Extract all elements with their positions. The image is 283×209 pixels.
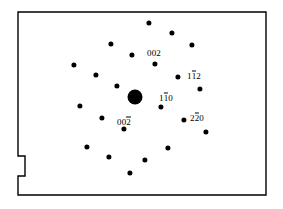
label-1bar10: 110 (159, 94, 173, 103)
index-digit-barred: 2 (126, 118, 131, 127)
plate-border-path (18, 12, 266, 195)
label-1bar12: 112 (187, 72, 201, 81)
plate-outline (0, 0, 283, 209)
index-digit-barred: 2 (195, 114, 200, 123)
label-002: 002 (147, 49, 161, 58)
index-digit: 00 (117, 117, 126, 127)
index-digit: 2 (196, 71, 201, 81)
index-digit: 002 (147, 48, 161, 58)
index-digit: 0 (199, 113, 204, 123)
index-digit: 0 (168, 93, 173, 103)
transmitted-beam-spot (128, 90, 143, 105)
index-digit-barred: 1 (164, 94, 169, 103)
index-digit-barred: 1 (192, 72, 197, 81)
label-2bar2bar0: 220 (190, 114, 204, 123)
label-00bar2: 002 (117, 118, 131, 127)
diffraction-pattern-figure: 002112110220002 (0, 0, 283, 209)
